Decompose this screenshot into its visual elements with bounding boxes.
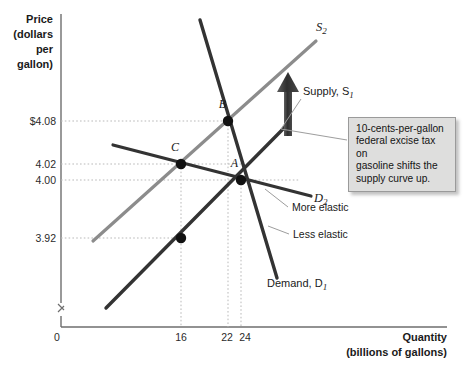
y-axis-title-line-2: per <box>36 43 54 55</box>
point-label-b: B <box>219 97 227 111</box>
y-axis-title-line-0: Price <box>26 13 53 25</box>
origin-label: 0 <box>54 331 60 343</box>
curve-demand-d2 <box>113 145 311 196</box>
curve-supply-s2 <box>93 41 316 241</box>
curve-label-s2: S2 <box>316 20 327 36</box>
y-tick-label-0: $4.08 <box>30 115 56 127</box>
curve-label-demand-d1: Demand, D1 <box>267 277 327 292</box>
supply-demand-figure: A B C S2 Supply, S1 D2 Demand <box>0 0 464 366</box>
callout-line-1: federal excise tax on <box>356 135 449 160</box>
callout-line-2: gasoline shifts the <box>356 160 449 172</box>
x-axis-title: Quantity (billions of gallons) <box>346 331 448 358</box>
y-tick-label-1: 4.02 <box>36 158 57 170</box>
leader-more-elastic <box>265 189 288 207</box>
supply-shift-arrow <box>277 72 299 136</box>
y-tick-label-3: 3.92 <box>36 232 57 244</box>
leader-less-elastic <box>268 226 289 234</box>
grid-lines <box>61 121 300 327</box>
x-tick-label-1: 22 <box>221 331 233 343</box>
point-c-marker <box>176 159 186 169</box>
y-axis-title-line-3: gallon) <box>17 58 53 70</box>
axis-break-icon <box>58 304 64 312</box>
curve-label-supply-s1: Supply, S1 <box>303 85 354 100</box>
annotation-more-elastic: More elastic <box>292 201 349 213</box>
point-label-c: C <box>171 140 180 154</box>
x-tick-label-0: 16 <box>175 331 187 343</box>
y-tick-label-2: 4.00 <box>36 174 57 186</box>
tax-annotation-callout: 10-cents-per-gallon federal excise tax o… <box>348 117 456 192</box>
callout-line-0: 10-cents-per-gallon <box>356 123 449 135</box>
x-axis-title-line-1: (billions of gallons) <box>346 346 447 358</box>
x-tick-label-2: 24 <box>239 331 251 343</box>
annotation-less-elastic: Less elastic <box>293 228 348 240</box>
y-axis-title-line-1: (dollars <box>13 28 53 40</box>
point-label-a: A <box>230 156 239 170</box>
point-b-marker <box>223 116 233 126</box>
arrow-shaft <box>284 89 292 136</box>
point-s1-at-16-marker <box>176 233 186 243</box>
x-axis-title-line-0: Quantity <box>402 331 447 343</box>
callout-line-3: supply curve up. <box>356 173 449 185</box>
point-a-marker <box>236 175 246 185</box>
y-axis-title: Price (dollars per gallon) <box>13 13 53 70</box>
